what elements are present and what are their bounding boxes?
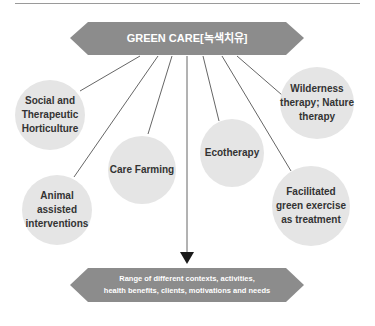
bottom-banner-label: Range of different contexts, activities,… <box>88 273 286 297</box>
arrow-down-icon <box>180 252 194 264</box>
bottom-banner-line1: Range of different contexts, activities, <box>88 273 286 285</box>
node-animal-assisted-interventions: Animal assisted interventions <box>22 175 92 245</box>
node-care-farming: Care Farming <box>108 136 176 204</box>
node-ecotherapy: Ecotherapy <box>200 119 264 187</box>
node-social-therapeutic-horticulture: Social and Therapeutic Horticulture <box>15 80 85 150</box>
top-banner-label: GREEN CARE[녹색치유] <box>88 31 286 45</box>
node-wilderness-therapy: Wilderness therapy; Nature therapy <box>280 67 354 139</box>
node-facilitated-green-exercise: Facilitated green exercise as treatment <box>272 166 350 246</box>
bottom-banner-line2: health benefits, clients, motivations an… <box>88 285 286 297</box>
